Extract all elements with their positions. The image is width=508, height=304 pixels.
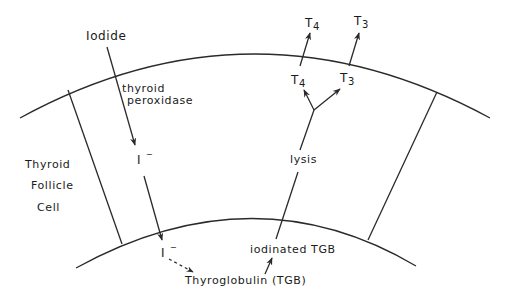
iodinated-tgb-label: iodinated TGB: [250, 243, 336, 256]
cell-label-line1: Thyroid: [24, 158, 70, 171]
t3-inner-subscript: 3: [348, 76, 355, 87]
t3-outer-subscript: 3: [362, 19, 369, 30]
t4-outer-label: T: [304, 16, 313, 30]
lysis-label: lysis: [290, 153, 317, 166]
t3-inner-label: T: [339, 71, 348, 85]
iodide-ion-lower-charge: −: [170, 243, 177, 252]
iodide-label: Iodide: [86, 29, 126, 43]
iodination-dashed-arrow: [169, 259, 193, 272]
iodide-ion-upper: I: [137, 153, 141, 167]
iodide-transport-arrow: [144, 176, 162, 240]
thyroglobulin-label: Thyroglobulin (TGB): [184, 274, 306, 287]
inner-membrane-arc: [76, 218, 416, 268]
t3-secretion-arrow: [349, 33, 359, 66]
lysis-stem: [300, 110, 314, 150]
enzyme-label-line2: peroxidase: [127, 94, 193, 107]
t4-outer-subscript: 4: [313, 21, 320, 32]
outer-membrane-arc: [20, 54, 490, 118]
t4-secretion-arrow: [300, 33, 310, 66]
left-cell-wall: [68, 90, 122, 244]
t3-outer-label: T: [353, 14, 362, 28]
lysis-line: [276, 172, 298, 239]
t3-branch-arrow: [314, 89, 340, 110]
iodide-ion-lower: I: [161, 246, 165, 260]
iodide-ion-upper-charge: −: [146, 150, 153, 159]
thyroid-follicle-diagram: Iodide thyroid peroxidase I − I − Thyroi…: [0, 0, 508, 304]
cell-label-line2: Follicle: [31, 179, 74, 192]
t4-branch-arrow: [304, 90, 314, 110]
right-cell-wall: [368, 92, 437, 240]
iodination-arrow: [265, 258, 272, 274]
t4-inner-label: T: [290, 73, 299, 87]
t4-inner-subscript: 4: [299, 78, 306, 89]
cell-label-line3: Cell: [37, 201, 60, 214]
